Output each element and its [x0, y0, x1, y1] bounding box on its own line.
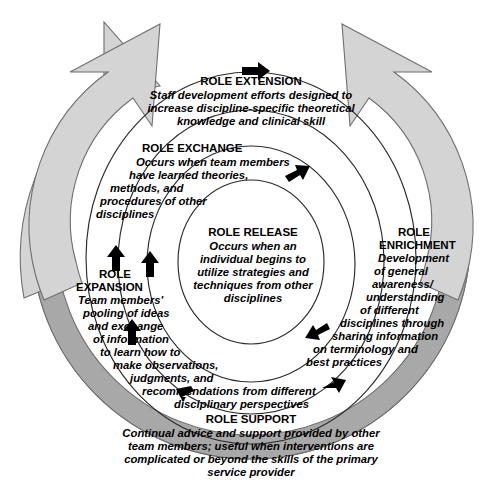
role-enrichment-line-2: of general [374, 265, 429, 277]
role-expansion-line-7: judgments, and [128, 372, 215, 384]
role-support-heading: ROLE SUPPORT [206, 413, 297, 425]
role-extension-line-1: Staff development efforts designed to [150, 89, 352, 101]
role-exchange-line-3: methods, and [110, 182, 185, 194]
direction-arrow-lower-right [305, 323, 330, 340]
role-exchange-line-1: Occurs when team members [136, 156, 290, 168]
role-enrichment-heading-1: ROLE [398, 226, 430, 238]
role-expansion-line-4: of information [93, 333, 169, 345]
role-extension-heading: ROLE EXTENSION [200, 75, 302, 87]
role-enrichment-line-7: sharing information [332, 330, 438, 342]
role-expansion-line-3: and exchange [88, 320, 163, 332]
role-enrichment-line-5: of different [360, 304, 420, 316]
role-extension-line-2: increase discipline-specific theoretical [147, 102, 355, 114]
role-enrichment-line-9: best practices [306, 356, 382, 368]
role-extension-line-3: knowledge and clinical skill [177, 115, 326, 127]
role-enrichment-line-6: disciplines through [340, 317, 444, 329]
role-release-line-3: utilize strategies and [197, 266, 310, 278]
role-enrichment-line-1: Development [378, 252, 450, 264]
diagram-canvas: ROLE EXTENSION Staff development efforts… [0, 0, 502, 488]
role-enrichment-line-4: understanding [366, 291, 445, 303]
role-exchange-line-4: procedures of other [99, 195, 207, 207]
role-expansion-line-2: pooling of ideas [82, 307, 170, 319]
label-role-extension: ROLE EXTENSION Staff development efforts… [147, 75, 355, 127]
role-expansion-line-8: recommendations from different [142, 385, 317, 397]
role-support-line-4: service provider [207, 466, 295, 478]
role-expansion-line-9: disciplinary perspectives [174, 398, 309, 410]
label-role-release: ROLE RELEASE Occurs when an individual b… [193, 226, 313, 304]
role-expansion-heading-2: EXPANSION [76, 281, 143, 293]
role-support-line-2: team members; useful when interventions … [128, 440, 374, 452]
role-exchange-line-2: have learned theories, [129, 169, 248, 181]
role-expansion-heading-1: ROLE [99, 268, 131, 280]
role-enrichment-line-3: awareness/ [372, 278, 435, 290]
role-release-line-4: techniques from other [193, 279, 313, 291]
role-enrichment-heading-2: ENRICHMENT [379, 239, 456, 251]
role-release-line-2: individual begins to [200, 253, 306, 265]
role-release-line-5: disciplines [224, 292, 282, 304]
role-support-line-3: complicated or beyond the skills of the … [124, 453, 378, 465]
role-release-spiral-diagram: ROLE EXTENSION Staff development efforts… [0, 0, 502, 488]
direction-arrow-left-lower [141, 251, 159, 277]
role-release-line-1: Occurs when an [209, 240, 296, 252]
role-expansion-line-6: make observations, [113, 359, 218, 371]
role-support-line-1: Continual advice and support provided by… [122, 427, 380, 439]
role-exchange-heading: ROLE EXCHANGE [142, 142, 243, 154]
role-exchange-line-5: disciplines [96, 208, 154, 220]
role-expansion-line-5: to learn how to [100, 346, 180, 358]
role-enrichment-line-8: on terminology and [313, 343, 419, 355]
direction-arrow-bottom-right [322, 377, 346, 393]
role-expansion-line-1: Team members' [78, 294, 163, 306]
role-release-heading: ROLE RELEASE [208, 226, 298, 238]
